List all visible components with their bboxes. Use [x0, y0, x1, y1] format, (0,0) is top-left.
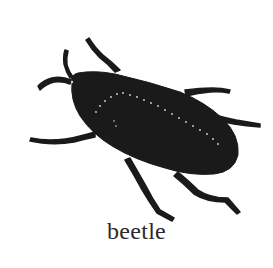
leg-mid-right — [185, 88, 230, 96]
beetle-body — [72, 72, 239, 175]
leg-rear-bottom — [174, 172, 240, 214]
antenna-left — [38, 77, 71, 90]
leg-front-left — [30, 132, 95, 144]
antenna-right — [64, 50, 73, 78]
leg-front-top — [86, 38, 120, 72]
caption-label: beetle — [0, 218, 273, 245]
